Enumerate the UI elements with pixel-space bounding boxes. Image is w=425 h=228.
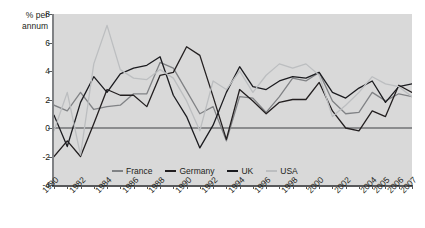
legend-item-germany[interactable]: Germany <box>165 166 214 176</box>
plot-area <box>54 14 412 185</box>
line-chart: % per annum 86420-2-4 198019821984198619… <box>0 0 425 228</box>
y-axis-tick-mark <box>48 185 52 186</box>
legend-label: Germany <box>179 166 214 176</box>
legend-swatch-icon <box>227 170 238 172</box>
y-axis-tick-label: 4 <box>26 66 50 76</box>
y-axis-tick-label: 0 <box>26 123 50 133</box>
chart-legend: FranceGermanyUKUSA <box>112 166 298 176</box>
y-axis-tick-mark <box>48 128 52 129</box>
legend-label: USA <box>280 166 297 176</box>
x-axis-tick-labels: 1980198219841986198819901992199419961998… <box>0 188 425 228</box>
legend-swatch-icon <box>165 170 176 172</box>
y-axis-tick-label: 6 <box>26 38 50 48</box>
legend-label: UK <box>241 166 253 176</box>
legend-item-usa[interactable]: USA <box>266 166 297 176</box>
legend-label: France <box>126 166 152 176</box>
y-axis-tick-mark <box>48 157 52 158</box>
series-lines <box>54 14 412 185</box>
legend-item-france[interactable]: France <box>112 166 152 176</box>
legend-swatch-icon <box>266 170 277 172</box>
legend-item-uk[interactable]: UK <box>227 166 253 176</box>
legend-swatch-icon <box>112 170 123 172</box>
y-axis-tick-mark <box>48 43 52 44</box>
y-axis-tick-mark <box>48 100 52 101</box>
series-line-france <box>54 62 412 140</box>
y-axis-tick-label: -2 <box>26 152 50 162</box>
series-line-uk <box>54 57 412 148</box>
y-axis-tick-mark <box>48 71 52 72</box>
y-axis-tick-mark <box>48 14 52 15</box>
y-axis-tick-label: 8 <box>26 9 50 19</box>
series-line-germany <box>54 47 412 157</box>
y-axis-tick-label: 2 <box>26 95 50 105</box>
